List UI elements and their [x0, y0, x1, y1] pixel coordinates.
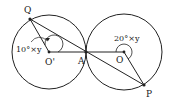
label-P: P — [146, 89, 152, 99]
label-Oprime: O' — [45, 57, 55, 67]
point-P — [142, 83, 145, 86]
angle-label-right: 20°×y — [114, 34, 140, 43]
label-Q: Q — [24, 5, 31, 15]
label-O: O — [116, 55, 123, 65]
two-circles-diagram: Q O' A O P 10°×y 20°×y — [0, 0, 170, 103]
label-A: A — [77, 56, 85, 66]
point-O — [123, 51, 126, 54]
angle-label-left: 10°×y — [16, 45, 42, 54]
point-A — [84, 50, 87, 53]
point-Q — [28, 17, 31, 20]
point-Oprime — [48, 51, 51, 54]
segment-O-P — [124, 52, 144, 85]
